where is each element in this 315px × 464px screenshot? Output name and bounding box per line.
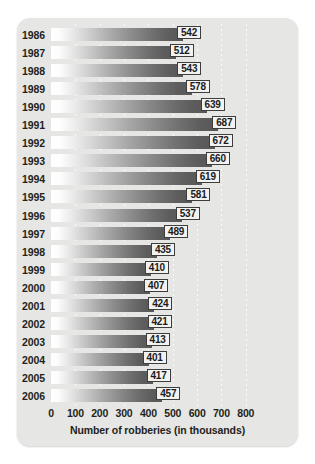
x-tick-100: 100 bbox=[67, 407, 84, 419]
bar-value-label: 424 bbox=[148, 297, 172, 310]
bar-row: 1994619 bbox=[17, 170, 298, 188]
bar-value-label: 537 bbox=[176, 207, 200, 220]
x-tick-200: 200 bbox=[91, 407, 108, 419]
bar-value-label: 435 bbox=[151, 243, 175, 256]
x-tick-300: 300 bbox=[116, 407, 133, 419]
bar-row: 2006457 bbox=[17, 387, 298, 405]
bar-track bbox=[51, 371, 153, 384]
bar-row: 1993660 bbox=[17, 152, 298, 170]
bar-value-label: 687 bbox=[212, 116, 236, 129]
bar-value-label: 543 bbox=[177, 62, 201, 75]
bar-value-label: 639 bbox=[201, 98, 225, 111]
bar-row: 2005417 bbox=[17, 369, 298, 387]
bar[interactable] bbox=[51, 118, 218, 131]
bar[interactable] bbox=[51, 154, 212, 167]
bar-row: 1988543 bbox=[17, 62, 298, 80]
bar[interactable] bbox=[51, 64, 183, 77]
bar-row: 1997489 bbox=[17, 225, 298, 243]
bar-row: 1995581 bbox=[17, 188, 298, 206]
bar-row: 1986542 bbox=[17, 26, 298, 44]
bar[interactable] bbox=[51, 190, 192, 203]
bar-value-label: 421 bbox=[148, 315, 172, 328]
bar-row: 2001424 bbox=[17, 297, 298, 315]
bar-value-label: 660 bbox=[206, 152, 230, 165]
bar-row: 1991687 bbox=[17, 116, 298, 134]
x-tick-400: 400 bbox=[140, 407, 157, 419]
bar[interactable] bbox=[51, 172, 202, 185]
bar-value-label: 542 bbox=[177, 26, 201, 39]
bar-track bbox=[51, 100, 207, 113]
bar-row: 1990639 bbox=[17, 98, 298, 116]
bar-row: 1992672 bbox=[17, 134, 298, 152]
bar-row: 2000407 bbox=[17, 279, 298, 297]
bar-value-label: 581 bbox=[186, 188, 210, 201]
bar[interactable] bbox=[51, 209, 182, 222]
bar-row: 1999410 bbox=[17, 261, 298, 279]
bar-value-label: 619 bbox=[196, 170, 220, 183]
bar[interactable] bbox=[51, 227, 170, 240]
bar-row: 1996537 bbox=[17, 207, 298, 225]
bar-value-label: 407 bbox=[144, 279, 168, 292]
x-tick-0: 0 bbox=[48, 407, 54, 419]
bar-track bbox=[51, 190, 192, 203]
bar[interactable] bbox=[51, 281, 150, 294]
bar[interactable] bbox=[51, 299, 154, 312]
bar-track bbox=[51, 28, 183, 41]
bar-track bbox=[51, 299, 154, 312]
x-axis-title: Number of robberies (in thousands) bbox=[17, 424, 298, 436]
x-tick-500: 500 bbox=[164, 407, 181, 419]
bar-track bbox=[51, 227, 170, 240]
bar-row: 2002421 bbox=[17, 315, 298, 333]
bar-row: 1998435 bbox=[17, 243, 298, 261]
bar-track bbox=[51, 154, 212, 167]
bar-track bbox=[51, 118, 218, 131]
bar-value-label: 672 bbox=[209, 134, 233, 147]
bar[interactable] bbox=[51, 335, 152, 348]
bar-track bbox=[51, 353, 149, 366]
bar-row: 2003413 bbox=[17, 333, 298, 351]
bar-track bbox=[51, 209, 182, 222]
x-tick-700: 700 bbox=[213, 407, 230, 419]
x-axis-tick-labels: 0100200300400500600700800 bbox=[17, 407, 298, 423]
bar-value-label: 489 bbox=[164, 225, 188, 238]
bar[interactable] bbox=[51, 100, 207, 113]
bar-track bbox=[51, 245, 157, 258]
bar[interactable] bbox=[51, 317, 154, 330]
bar-value-label: 413 bbox=[146, 333, 170, 346]
bar-track bbox=[51, 82, 192, 95]
bar-value-label: 401 bbox=[143, 351, 167, 364]
bar[interactable] bbox=[51, 389, 162, 402]
bar-track bbox=[51, 46, 176, 59]
bar-value-label: 410 bbox=[145, 261, 169, 274]
bar-row: 1989578 bbox=[17, 80, 298, 98]
bar-track bbox=[51, 136, 215, 149]
bar[interactable] bbox=[51, 28, 183, 41]
bar-track bbox=[51, 281, 150, 294]
chart-card: 1986542198751219885431989578199063919916… bbox=[17, 18, 298, 446]
bar[interactable] bbox=[51, 371, 153, 384]
bar[interactable] bbox=[51, 46, 176, 59]
bar[interactable] bbox=[51, 353, 149, 366]
bar-value-label: 457 bbox=[156, 387, 180, 400]
bar-track bbox=[51, 263, 151, 276]
bar[interactable] bbox=[51, 263, 151, 276]
x-tick-800: 800 bbox=[237, 407, 254, 419]
bar[interactable] bbox=[51, 245, 157, 258]
bar[interactable] bbox=[51, 82, 192, 95]
bar-track bbox=[51, 172, 202, 185]
bar-value-label: 578 bbox=[186, 80, 210, 93]
bar-row: 2004401 bbox=[17, 351, 298, 369]
bar-value-label: 512 bbox=[170, 44, 194, 57]
x-tick-600: 600 bbox=[189, 407, 206, 419]
bar[interactable] bbox=[51, 136, 215, 149]
bar-track bbox=[51, 317, 154, 330]
bar-chart-plot-area: 1986542198751219885431989578199063919916… bbox=[17, 18, 298, 446]
bar-track bbox=[51, 389, 162, 402]
bar-row: 1987512 bbox=[17, 44, 298, 62]
bar-value-label: 417 bbox=[147, 369, 171, 382]
bar-track bbox=[51, 64, 183, 77]
bar-track bbox=[51, 335, 152, 348]
